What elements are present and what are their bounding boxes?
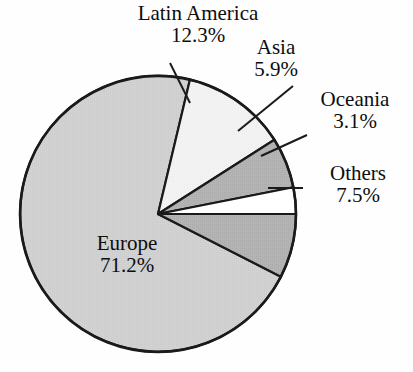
slice-label-asia-name: Asia	[228, 36, 324, 58]
slice-label-europe-name: Europe	[52, 232, 202, 254]
slice-label-oceania-value: 3.1%	[296, 110, 413, 132]
slice-label-oceania-name: Oceania	[296, 88, 413, 110]
slice-label-others: Others 7.5%	[306, 162, 410, 206]
slice-label-others-name: Others	[306, 162, 410, 184]
slice-label-latin-america-name: Latin America	[108, 2, 288, 24]
slice-label-others-value: 7.5%	[306, 184, 410, 206]
slice-label-europe: Europe 71.2%	[52, 232, 202, 276]
slice-label-asia: Asia 5.9%	[228, 36, 324, 80]
slice-label-europe-value: 71.2%	[52, 254, 202, 276]
slice-label-oceania: Oceania 3.1%	[296, 88, 413, 132]
pie-chart-figure: Latin America 12.3% Asia 5.9% Oceania 3.…	[0, 0, 413, 372]
slice-label-asia-value: 5.9%	[228, 58, 324, 80]
